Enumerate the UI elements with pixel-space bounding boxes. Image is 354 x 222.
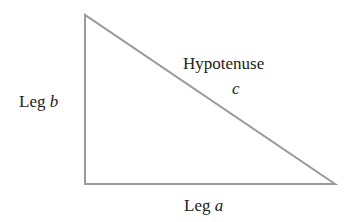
hypotenuse-label: Hypotenuse	[183, 55, 264, 72]
leg-a-var: a	[215, 196, 224, 215]
leg-b-var: b	[50, 92, 59, 111]
leg-a-label: Leg a	[184, 197, 223, 214]
leg-b-text: Leg	[19, 92, 50, 111]
leg-a-text: Leg	[184, 196, 215, 215]
right-triangle	[0, 0, 354, 222]
leg-b-label: Leg b	[19, 93, 58, 110]
diagram-canvas: Leg b Hypotenuse c Leg a	[0, 0, 354, 222]
hypotenuse-var: c	[232, 80, 240, 97]
